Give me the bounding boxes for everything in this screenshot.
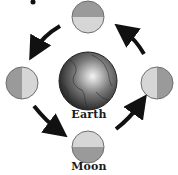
moon-icon-top [72, 1, 104, 33]
arrow-left-to-bottom [34, 106, 58, 130]
arrow-right-to-top [124, 31, 144, 54]
moon-icon-right [141, 67, 173, 99]
arrow-top-to-left [35, 26, 60, 50]
moon-phases-diagram: Earth Moon [0, 0, 178, 175]
moon-icon-left [6, 67, 38, 99]
dot-mark [31, 0, 36, 5]
moon-icon-bottom [72, 131, 104, 163]
earth-globe-icon [59, 52, 117, 110]
diagram-art [0, 0, 178, 175]
moon-label: Moon [69, 160, 109, 173]
earth-label: Earth [69, 108, 109, 121]
arrow-bottom-to-right [116, 104, 140, 129]
